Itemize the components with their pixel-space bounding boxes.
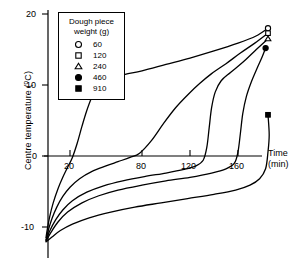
ytick-label-20: 20 xyxy=(26,9,36,19)
x-axis-title-line2: (min) xyxy=(268,159,289,169)
end-marker-120 xyxy=(266,31,271,36)
legend-label-60: 60 xyxy=(85,40,102,49)
open-circle-icon xyxy=(71,39,85,50)
xtick-label-80: 80 xyxy=(136,161,146,171)
end-marker-910 xyxy=(266,113,271,118)
legend-title-line1: Dough piece xyxy=(61,17,122,27)
filled-square-icon xyxy=(71,83,85,94)
legend-label-120: 120 xyxy=(85,51,106,60)
ytick-label-neg10: -10 xyxy=(21,222,34,232)
legend-row-240: 240 xyxy=(59,61,124,72)
xtick-label-160: 160 xyxy=(229,161,244,171)
legend-title-line2: weight (g) xyxy=(61,27,122,37)
open-square-icon xyxy=(71,50,85,61)
legend-label-240: 240 xyxy=(85,62,106,71)
x-axis-title-line1: Time xyxy=(268,148,288,158)
plot-area xyxy=(0,0,304,274)
legend-entries: 60120240460910 xyxy=(59,38,124,94)
ytick-label-0: 0 xyxy=(32,151,37,161)
y-axis-title: Centre temperature (oC) xyxy=(22,41,33,201)
legend: Dough piece weight (g) 60120240460910 xyxy=(58,12,125,100)
legend-row-60: 60 xyxy=(59,39,124,50)
y-axis-ticks xyxy=(42,14,48,227)
xtick-label-20: 20 xyxy=(64,161,74,171)
legend-label-910: 910 xyxy=(85,84,106,93)
y-axis-title-text: Centre temperature ( xyxy=(23,84,33,170)
legend-title: Dough piece weight (g) xyxy=(59,13,124,38)
end-marker-460 xyxy=(263,45,268,50)
chart-figure: Centre temperature (oC) 20 10 0 -10 20 8… xyxy=(0,0,304,274)
legend-row-120: 120 xyxy=(59,50,124,61)
x-axis-ticks xyxy=(70,150,238,156)
end-marker-240 xyxy=(265,36,271,41)
legend-row-910: 910 xyxy=(59,83,124,94)
filled-circle-icon xyxy=(71,72,85,83)
series-end-markers xyxy=(263,26,271,118)
open-triangle-icon xyxy=(71,61,85,72)
legend-label-460: 460 xyxy=(85,73,106,82)
xtick-label-120: 120 xyxy=(181,161,196,171)
legend-row-460: 460 xyxy=(59,72,124,83)
ytick-label-10: 10 xyxy=(26,80,36,90)
end-marker-60 xyxy=(265,26,270,31)
